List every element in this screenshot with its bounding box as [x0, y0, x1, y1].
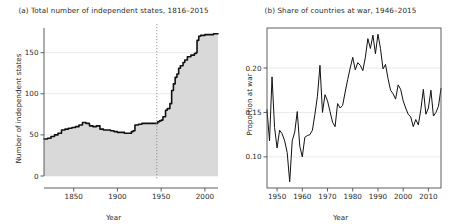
y-tick-label: 100 — [25, 89, 39, 98]
x-tick-label: 1850 — [65, 192, 84, 201]
x-tick-label: 1950 — [268, 192, 287, 201]
y-tick-label: 0 — [34, 172, 39, 181]
x-tick-label: 1980 — [344, 192, 363, 201]
panel-a-y-axis-label: Number of independent states — [14, 49, 23, 169]
x-tick-label: 2000 — [196, 192, 215, 201]
y-tick-label: 50 — [29, 130, 39, 139]
x-tick-label: 1960 — [293, 192, 312, 201]
panel-b-y-axis-label: Proportion at war — [245, 45, 254, 165]
x-tick-label: 1950 — [152, 192, 171, 201]
x-tick-label: 1990 — [369, 192, 388, 201]
plot-frame — [267, 28, 441, 188]
figure-two-panel-chart: (a) Total number of independent states, … — [0, 0, 454, 224]
panel-a-x-axis-label: Year — [0, 213, 227, 222]
panel-b-plot: 0.100.150.201950196019701980199020002010 — [227, 0, 454, 224]
data-series-line — [267, 34, 441, 182]
x-tick-label: 2010 — [419, 192, 438, 201]
panel-a-plot: 0501001501850190019502000 — [0, 0, 227, 224]
x-tick-label: 1970 — [318, 192, 337, 201]
x-tick-label: 2000 — [394, 192, 413, 201]
x-tick-label: 1900 — [108, 192, 127, 201]
panel-b-x-axis-label: Year — [227, 213, 454, 222]
panel-a-independent-states: (a) Total number of independent states, … — [0, 0, 227, 224]
panel-b-share-at-war: (b) Share of countries at war, 1946–2015… — [227, 0, 454, 224]
y-tick-label: 150 — [25, 48, 39, 57]
